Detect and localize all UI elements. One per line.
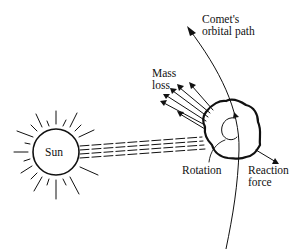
comet-path-label-2: orbital path (202, 25, 255, 37)
mass-loss-label-1: Mass (152, 67, 176, 79)
reaction-force-label-1: Reaction (248, 164, 289, 176)
rotation-label: Rotation (182, 164, 222, 176)
reaction-force-label-2: force (248, 176, 272, 188)
orbital-path (189, 29, 239, 249)
sunlight-beams (80, 137, 205, 158)
mass-loss-label-2: loss (152, 79, 170, 91)
orbital-path-arrowhead (187, 26, 196, 36)
reaction-force-arrow (256, 150, 276, 162)
rotation-arrow (222, 118, 237, 140)
comet-path-label-1: Comet's (202, 13, 239, 25)
mass-loss-arrows (164, 86, 213, 129)
sun-label: Sun (45, 146, 63, 158)
comet-diagram (0, 0, 301, 249)
